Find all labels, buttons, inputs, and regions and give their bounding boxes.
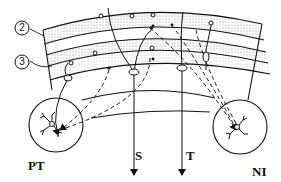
label-S: S	[135, 148, 142, 164]
neuron-icons	[40, 112, 248, 139]
layer-marker-3: 3	[14, 54, 30, 70]
diagram-canvas: 2 3 PT S T NI	[0, 0, 281, 182]
label-NI: NI	[252, 164, 266, 180]
label-T: T	[186, 148, 195, 164]
layer-marker-2: 2	[14, 20, 30, 36]
layer-bands	[43, 13, 270, 80]
label-PT: PT	[28, 158, 45, 174]
